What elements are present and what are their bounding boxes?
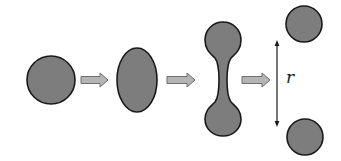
elongated-droplet (117, 48, 157, 112)
upper-daughter-droplet (286, 6, 322, 42)
right-arrow-icon (167, 73, 195, 87)
right-arrow-icon (242, 73, 270, 87)
separation-label-r: r (286, 67, 295, 87)
sphere-droplet (27, 56, 75, 104)
necked-droplet (205, 22, 241, 136)
lower-daughter-droplet (287, 119, 323, 155)
droplet-breakup-diagram: r (0, 0, 341, 161)
right-arrow-icon (81, 73, 108, 87)
